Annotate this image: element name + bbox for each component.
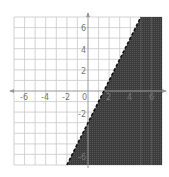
y-tick-neg2: -2 — [78, 110, 86, 119]
x-tick-4: 4 — [127, 93, 132, 102]
x-tick-neg6: -6 — [20, 93, 28, 102]
x-tick-neg4: -4 — [41, 93, 49, 102]
y-tick-6: 6 — [81, 24, 86, 33]
y-tick-neg6: -6 — [78, 153, 86, 162]
x-tick-neg2: -2 — [62, 93, 70, 102]
graph: -6 -4 -2 0 2 4 6 6 4 2 -2 -6 — [0, 0, 169, 177]
y-tick-4: 4 — [81, 46, 86, 55]
y-axis-arrow-up-icon — [86, 12, 90, 17]
x-tick-2: 2 — [106, 93, 111, 102]
x-tick-0: 0 — [82, 93, 87, 102]
y-tick-2: 2 — [81, 67, 86, 76]
x-axis-arrow-left-icon — [9, 89, 14, 93]
x-tick-6: 6 — [149, 93, 154, 102]
x-axis-arrow-right-icon — [162, 89, 167, 93]
